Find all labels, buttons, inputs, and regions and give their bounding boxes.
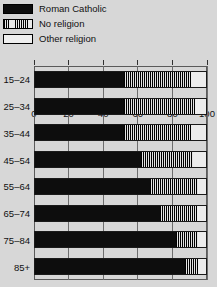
y-axis-label-8: 85+: [14, 261, 30, 272]
bar-segment-no-religion[interactable]: [141, 151, 193, 168]
bar-row[interactable]: [34, 205, 207, 222]
hatched-swatch-icon: [3, 19, 33, 29]
bar-row[interactable]: [34, 178, 207, 195]
x-axis-tick: [103, 60, 104, 65]
bar-segment-no-religion[interactable]: [185, 258, 199, 275]
y-axis-label-6: 65–74: [4, 208, 30, 219]
x-axis-tick: [68, 60, 69, 65]
bar-segment-roman-catholic[interactable]: [34, 98, 124, 115]
bar-row[interactable]: [34, 71, 207, 88]
bar-segment-roman-catholic[interactable]: [34, 258, 185, 275]
bar-row[interactable]: [34, 151, 207, 168]
y-axis-label-1: 15–24: [4, 74, 30, 85]
bar-segment-no-religion[interactable]: [160, 205, 196, 222]
bar-segment-no-religion[interactable]: [124, 124, 191, 141]
bar-segment-roman-catholic[interactable]: [34, 231, 176, 248]
bar-segment-other-religion[interactable]: [191, 124, 207, 141]
bar-segment-roman-catholic[interactable]: [34, 151, 141, 168]
x-axis-tick: [137, 60, 138, 65]
solid-black-swatch-icon: [3, 4, 33, 14]
bar-segment-no-religion[interactable]: [124, 71, 191, 88]
bar-segment-other-religion[interactable]: [197, 205, 207, 222]
legend-item-roman-catholic: Roman Catholic: [3, 2, 163, 16]
bar-row[interactable]: [34, 258, 207, 275]
bar-segment-roman-catholic[interactable]: [34, 205, 160, 222]
y-axis-label-4: 45–54: [4, 154, 30, 165]
legend-item-other-religion: Other religion: [3, 32, 163, 46]
empty-swatch-icon: [3, 34, 33, 44]
bar-row[interactable]: [34, 231, 207, 248]
bar-segment-no-religion[interactable]: [124, 98, 195, 115]
bar-segment-roman-catholic[interactable]: [34, 71, 124, 88]
legend-label-roman-catholic: Roman Catholic: [39, 4, 107, 14]
plot-area: [34, 66, 207, 280]
bar-segment-other-religion[interactable]: [198, 178, 207, 195]
bar-segment-roman-catholic[interactable]: [34, 124, 124, 141]
y-axis-label-3: 35–44: [4, 127, 30, 138]
y-axis-label-2: 25–34: [4, 101, 30, 112]
bar-segment-other-religion[interactable]: [198, 258, 207, 275]
bar-segment-roman-catholic[interactable]: [34, 178, 150, 195]
bar-row[interactable]: [34, 124, 207, 141]
y-axis-label-7: 75–84: [4, 234, 30, 245]
stacked-bar-chart: Roman Catholic No religion Other religio…: [0, 0, 217, 287]
bar-segment-no-religion[interactable]: [176, 231, 198, 248]
bar-segment-other-religion[interactable]: [195, 98, 207, 115]
bar-segment-no-religion[interactable]: [150, 178, 198, 195]
bar-segment-other-religion[interactable]: [193, 151, 207, 168]
chart-legend: Roman Catholic No religion Other religio…: [3, 2, 163, 47]
bar-row[interactable]: [34, 98, 207, 115]
legend-label-no-religion: No religion: [39, 19, 84, 29]
y-axis-label-5: 55–64: [4, 181, 30, 192]
x-axis-tick: [207, 60, 208, 65]
legend-label-other-religion: Other religion: [39, 34, 96, 44]
y-axis: 15–2425–3435–4445–5455–6465–7475–8485+: [0, 66, 30, 280]
x-axis-tick: [34, 60, 35, 65]
legend-item-no-religion: No religion: [3, 17, 163, 31]
bar-segment-other-religion[interactable]: [191, 71, 207, 88]
bar-segment-other-religion[interactable]: [198, 231, 207, 248]
x-axis-tick: [172, 60, 173, 65]
